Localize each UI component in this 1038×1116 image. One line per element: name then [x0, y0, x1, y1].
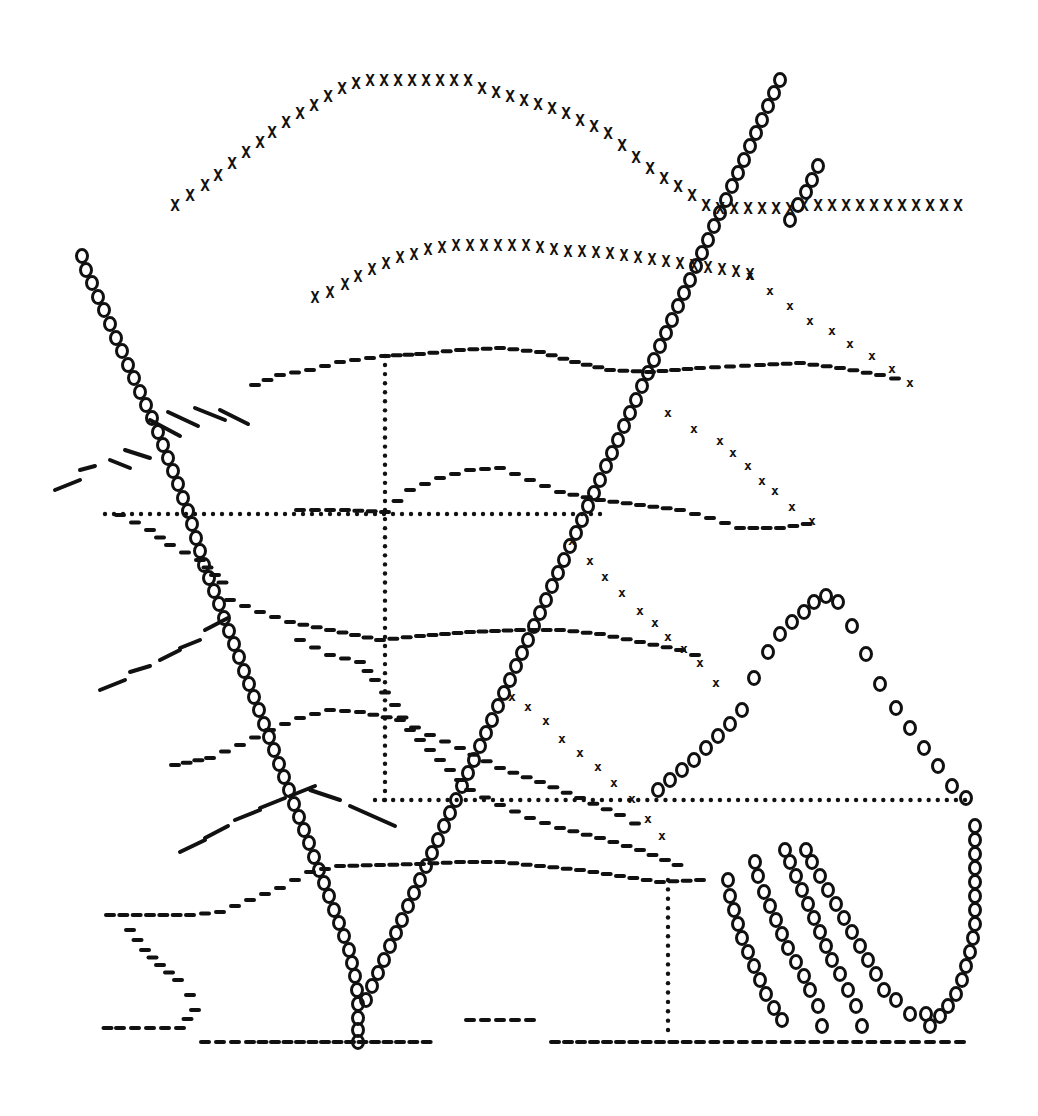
svg-text:X: X: [869, 196, 879, 215]
svg-text:X: X: [645, 159, 655, 178]
svg-text:X: X: [827, 196, 837, 215]
svg-text:X: X: [813, 196, 823, 215]
svg-text:x: x: [586, 553, 594, 568]
svg-text:x: x: [610, 775, 618, 790]
svg-text:X: X: [715, 199, 725, 218]
svg-text:X: X: [661, 253, 670, 271]
svg-text:x: x: [806, 313, 814, 328]
svg-text:X: X: [200, 176, 210, 195]
svg-text:X: X: [521, 237, 530, 255]
svg-text:X: X: [255, 133, 265, 152]
svg-text:x: x: [716, 433, 724, 448]
svg-text:X: X: [323, 87, 333, 106]
svg-text:x: x: [771, 483, 779, 498]
svg-text:X: X: [491, 83, 501, 102]
background: [0, 0, 1038, 1116]
svg-text:X: X: [340, 276, 349, 294]
svg-text:X: X: [577, 243, 586, 261]
svg-text:X: X: [953, 196, 963, 215]
svg-text:X: X: [673, 177, 683, 196]
svg-text:X: X: [295, 104, 305, 123]
svg-text:x: x: [680, 641, 688, 656]
svg-text:x: x: [846, 336, 854, 351]
svg-text:x: x: [628, 791, 636, 806]
svg-text:X: X: [617, 136, 627, 155]
svg-text:X: X: [309, 96, 319, 115]
svg-text:X: X: [477, 79, 487, 98]
svg-text:X: X: [687, 186, 697, 205]
svg-text:X: X: [939, 196, 949, 215]
svg-text:x: x: [508, 689, 516, 704]
svg-text:x: x: [618, 585, 626, 600]
svg-text:X: X: [561, 104, 571, 123]
svg-text:X: X: [701, 196, 711, 215]
svg-text:x: x: [786, 298, 794, 313]
svg-text:x: x: [542, 713, 550, 728]
svg-text:X: X: [185, 186, 195, 205]
svg-text:x: x: [744, 458, 752, 473]
svg-text:x: x: [664, 629, 672, 644]
svg-text:X: X: [563, 243, 572, 261]
svg-text:X: X: [897, 196, 907, 215]
svg-text:x: x: [766, 283, 774, 298]
svg-text:x: x: [594, 759, 602, 774]
svg-text:x: x: [888, 361, 896, 376]
svg-text:X: X: [519, 91, 529, 110]
svg-text:X: X: [325, 284, 334, 302]
svg-text:x: x: [524, 699, 532, 714]
svg-text:x: x: [788, 499, 796, 514]
svg-text:X: X: [675, 255, 684, 273]
svg-text:X: X: [689, 257, 698, 275]
svg-text:x: x: [690, 421, 698, 436]
artwork-canvas: XXXXXXXXXXXXXXXXXXXXXXXXXXXXXXXXXXXXXXXX…: [0, 0, 1038, 1116]
svg-text:x: x: [576, 745, 584, 760]
svg-text:X: X: [743, 199, 753, 218]
svg-text:X: X: [435, 71, 445, 90]
svg-text:X: X: [310, 289, 319, 307]
svg-text:X: X: [757, 199, 767, 218]
svg-text:X: X: [575, 111, 585, 130]
svg-text:X: X: [547, 99, 557, 118]
svg-text:X: X: [841, 196, 851, 215]
svg-text:X: X: [619, 247, 628, 265]
svg-text:X: X: [799, 196, 809, 215]
svg-text:x: x: [758, 473, 766, 488]
svg-text:X: X: [549, 241, 558, 259]
svg-text:X: X: [479, 237, 488, 255]
svg-text:X: X: [883, 196, 893, 215]
svg-text:X: X: [267, 123, 277, 142]
svg-text:X: X: [463, 71, 473, 90]
svg-text:X: X: [493, 237, 502, 255]
svg-text:X: X: [213, 166, 223, 185]
svg-text:X: X: [505, 87, 515, 106]
svg-text:X: X: [421, 71, 431, 90]
svg-text:X: X: [771, 199, 781, 218]
svg-text:x: x: [808, 513, 816, 528]
svg-text:X: X: [731, 263, 740, 281]
svg-text:X: X: [281, 113, 291, 132]
svg-text:X: X: [353, 268, 362, 286]
svg-text:X: X: [449, 71, 459, 90]
svg-text:X: X: [337, 79, 347, 98]
svg-text:X: X: [925, 196, 935, 215]
svg-text:X: X: [631, 148, 641, 167]
svg-text:x: x: [664, 405, 672, 420]
svg-text:X: X: [381, 255, 390, 273]
svg-text:X: X: [533, 95, 543, 114]
svg-text:x: x: [746, 268, 754, 283]
svg-text:X: X: [407, 71, 417, 90]
svg-text:x: x: [696, 655, 704, 670]
svg-text:X: X: [589, 117, 599, 136]
svg-text:x: x: [601, 569, 609, 584]
svg-text:X: X: [241, 143, 251, 162]
svg-text:x: x: [828, 323, 836, 338]
svg-text:x: x: [636, 603, 644, 618]
svg-text:x: x: [712, 675, 720, 690]
svg-text:X: X: [423, 241, 432, 259]
svg-text:X: X: [379, 71, 389, 90]
svg-text:X: X: [659, 169, 669, 188]
svg-text:X: X: [365, 71, 375, 90]
svg-text:X: X: [633, 249, 642, 267]
svg-text:X: X: [911, 196, 921, 215]
svg-text:X: X: [603, 124, 613, 143]
